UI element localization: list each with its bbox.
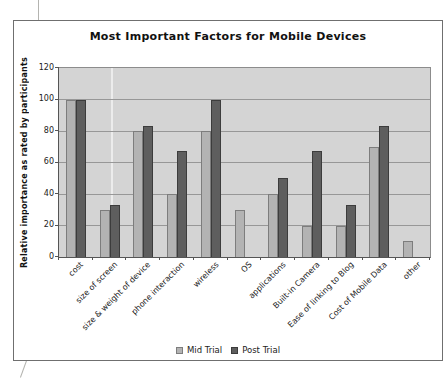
bar-post-trial-size-of-screen	[110, 205, 120, 257]
bar-post-trial-cost-of-mobile-data	[379, 126, 389, 257]
bar-mid-trial-size-of-screen	[100, 210, 110, 257]
bar-mid-trial-cost-of-mobile-data	[369, 147, 379, 257]
bar-mid-trial-built-in-camera	[302, 226, 312, 258]
x-label-ease-of-linking-to-blog: Ease of linking to Blog	[286, 260, 355, 329]
legend-item-post-trial: Post Trial	[231, 345, 280, 355]
y-tick-label-0: 0	[14, 252, 54, 261]
bar-mid-trial-os	[235, 210, 245, 257]
y-tick-mark-100	[55, 99, 59, 100]
x-label-other: other	[401, 260, 422, 281]
y-tick-mark-80	[55, 130, 59, 131]
bar-mid-trial-wireless	[201, 131, 211, 257]
x-tick-mark-7	[294, 257, 295, 260]
legend-swatch-mid-trial	[176, 347, 183, 354]
x-tick-mark-11	[429, 257, 430, 260]
x-tick-mark-2	[125, 257, 126, 260]
y-tick-label-120: 120	[14, 63, 54, 72]
legend: Mid TrialPost Trial	[14, 345, 442, 355]
plot-area	[58, 67, 431, 258]
x-tick-mark-8	[328, 257, 329, 260]
legend-label-mid-trial: Mid Trial	[187, 345, 222, 355]
x-tick-mark-9	[362, 257, 363, 260]
x-tick-mark-6	[260, 257, 261, 260]
bar-post-trial-wireless	[211, 100, 221, 258]
y-tick-mark-120	[55, 67, 59, 68]
bar-post-trial-size-weight-of-device	[143, 126, 153, 257]
bar-mid-trial-cost	[66, 100, 76, 258]
x-tick-mark-4	[193, 257, 194, 260]
y-tick-label-80: 80	[14, 126, 54, 135]
bar-mid-trial-size-weight-of-device	[133, 131, 143, 257]
x-tick-mark-1	[92, 257, 93, 260]
y-tick-mark-20	[55, 225, 59, 226]
gridline-100	[59, 99, 430, 100]
legend-item-mid-trial: Mid Trial	[176, 345, 222, 355]
legend-swatch-post-trial	[231, 347, 238, 354]
y-tick-label-40: 40	[14, 189, 54, 198]
x-tick-mark-0	[58, 257, 59, 260]
y-tick-label-100: 100	[14, 94, 54, 103]
x-label-cost: cost	[67, 260, 85, 278]
legend-label-post-trial: Post Trial	[242, 345, 280, 355]
y-tick-label-60: 60	[14, 157, 54, 166]
bar-post-trial-applications	[278, 178, 288, 257]
y-tick-mark-40	[55, 193, 59, 194]
x-label-wireless: wireless	[191, 260, 220, 289]
chart-frame: Most Important Factors for Mobile Device…	[13, 20, 443, 361]
bar-mid-trial-ease-of-linking-to-blog	[336, 226, 346, 258]
x-tick-mark-5	[227, 257, 228, 260]
bar-post-trial-ease-of-linking-to-blog	[346, 205, 356, 257]
bar-post-trial-phone-interaction	[177, 151, 187, 257]
bar-mid-trial-phone-interaction	[167, 194, 177, 257]
chart-title: Most Important Factors for Mobile Device…	[14, 30, 442, 43]
x-label-cost-of-mobile-data: Cost of Mobile Data	[327, 260, 389, 322]
scan-fold-line-bottom	[20, 360, 27, 377]
x-tick-mark-10	[395, 257, 396, 260]
bar-mid-trial-other	[403, 241, 413, 257]
x-tick-mark-3	[159, 257, 160, 260]
gridline-80	[59, 131, 430, 132]
y-tick-mark-60	[55, 162, 59, 163]
x-label-os: OS	[239, 260, 253, 274]
y-tick-label-20: 20	[14, 220, 54, 229]
bar-post-trial-built-in-camera	[312, 151, 322, 257]
bar-mid-trial-applications	[268, 194, 278, 257]
bar-post-trial-cost	[76, 100, 86, 258]
